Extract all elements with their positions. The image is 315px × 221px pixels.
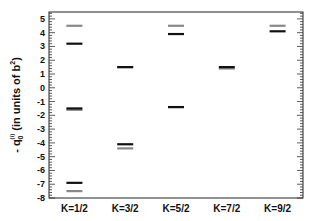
y-tick-label: -2	[37, 110, 45, 120]
plot-border	[49, 12, 303, 198]
y-tick-label: 0	[40, 83, 45, 93]
y-tick-label: -6	[37, 165, 45, 175]
y-axis-label: - q0(i) (in units of b2)	[9, 57, 24, 153]
level-chart: 543210-1-2-3-4-5-6-7-8 K=1/2K=3/2K=5/2K=…	[0, 0, 315, 221]
y-tick-label: -8	[37, 193, 45, 203]
energy-levels	[66, 26, 285, 191]
category-label: K=9/2	[264, 203, 291, 214]
y-tick-label: -4	[37, 138, 45, 148]
x-axis-categories: K=1/2K=3/2K=5/2K=7/2K=9/2	[61, 203, 292, 214]
y-axis: 543210-1-2-3-4-5-6-7-8	[37, 13, 55, 203]
y-tick-label: -1	[37, 97, 45, 107]
y-tick-label: 5	[40, 14, 45, 24]
category-label: K=7/2	[213, 203, 240, 214]
y-tick-label: 3	[40, 41, 45, 51]
category-label: K=1/2	[61, 203, 88, 214]
right-axis-ticks	[297, 13, 303, 198]
y-tick-label: 4	[40, 28, 45, 38]
y-tick-label: -7	[37, 179, 45, 189]
category-label: K=3/2	[112, 203, 139, 214]
y-tick-label: -5	[37, 152, 45, 162]
y-tick-label: -3	[37, 124, 45, 134]
y-tick-label: 1	[40, 69, 45, 79]
category-label: K=5/2	[163, 203, 190, 214]
y-axis-title: - q0(i) (in units of b2)	[9, 57, 24, 153]
plot-frame	[49, 12, 303, 198]
y-tick-label: 2	[40, 55, 45, 65]
